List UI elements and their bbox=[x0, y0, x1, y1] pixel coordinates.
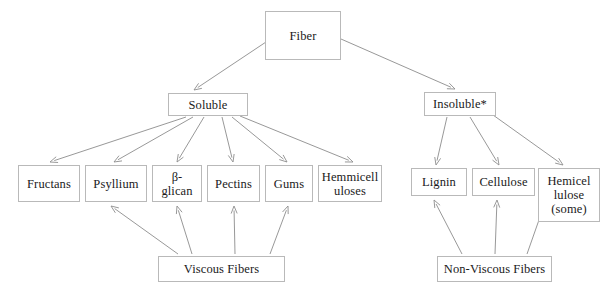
edge-soluble-to-pectins bbox=[222, 117, 234, 162]
node-gums-label: Gums bbox=[271, 177, 307, 191]
node-pectins-label: Pectins bbox=[212, 177, 255, 191]
edge-viscous-to-gums bbox=[270, 206, 288, 254]
node-non-viscous-fibers[interactable]: Non-Viscous Fibers bbox=[437, 256, 552, 282]
flow-chart-canvas: Fiber Soluble Insoluble* Fructans Psylli… bbox=[0, 0, 613, 294]
edge-insoluble-to-hemicellulose-some bbox=[493, 115, 563, 165]
node-fructans-label: Fructans bbox=[24, 177, 74, 191]
node-soluble[interactable]: Soluble bbox=[168, 93, 248, 116]
node-lignin-label: Lignin bbox=[419, 175, 459, 189]
edge-insoluble-to-cellulose bbox=[470, 117, 499, 165]
node-cellulose[interactable]: Cellulose bbox=[472, 168, 535, 196]
edge-viscous-to-beta-glican bbox=[176, 206, 192, 254]
edge-viscous-to-psyllium bbox=[111, 206, 178, 254]
node-beta-glican-label: β- glican bbox=[158, 170, 195, 198]
node-viscous-fibers-label: Viscous Fibers bbox=[181, 262, 262, 276]
edge-soluble-to-psyllium bbox=[114, 117, 193, 162]
edge-non-viscous-to-lignin bbox=[434, 200, 462, 254]
node-beta-glican[interactable]: β- glican bbox=[152, 165, 202, 202]
edge-soluble-to-hemmicelluloses bbox=[240, 116, 353, 162]
node-psyllium[interactable]: Psyllium bbox=[85, 165, 147, 202]
node-insoluble-label: Insoluble* bbox=[430, 97, 490, 111]
edge-fiber-to-insoluble bbox=[341, 39, 455, 89]
edge-viscous-to-pectins bbox=[231, 206, 237, 254]
node-non-viscous-fibers-label: Non-Viscous Fibers bbox=[441, 262, 548, 276]
node-psyllium-label: Psyllium bbox=[90, 177, 141, 191]
node-hemmicelluloses-label: Hemmicell uloses bbox=[319, 170, 381, 198]
node-gums[interactable]: Gums bbox=[265, 165, 313, 202]
node-fructans[interactable]: Fructans bbox=[18, 165, 80, 202]
node-lignin[interactable]: Lignin bbox=[411, 168, 467, 196]
node-insoluble[interactable]: Insoluble* bbox=[424, 92, 496, 116]
node-cellulose-label: Cellulose bbox=[476, 175, 530, 189]
node-hemicellulose-some-label: Hemicel lulose (some) bbox=[544, 174, 593, 216]
edge-non-viscous-to-cellulose bbox=[494, 200, 500, 254]
node-pectins[interactable]: Pectins bbox=[207, 165, 260, 202]
edge-soluble-to-gums bbox=[232, 117, 287, 162]
node-viscous-fibers[interactable]: Viscous Fibers bbox=[158, 256, 285, 282]
node-fiber[interactable]: Fiber bbox=[265, 11, 341, 60]
node-hemmicelluloses[interactable]: Hemmicell uloses bbox=[318, 165, 382, 202]
edge-soluble-to-fructans bbox=[50, 117, 186, 162]
node-soluble-label: Soluble bbox=[186, 98, 231, 112]
edge-soluble-to-beta-glican bbox=[177, 117, 204, 162]
edge-insoluble-to-lignin bbox=[435, 117, 447, 165]
node-hemicellulose-some[interactable]: Hemicel lulose (some) bbox=[538, 168, 600, 222]
node-fiber-label: Fiber bbox=[287, 29, 320, 43]
edge-fiber-to-soluble bbox=[194, 42, 266, 90]
